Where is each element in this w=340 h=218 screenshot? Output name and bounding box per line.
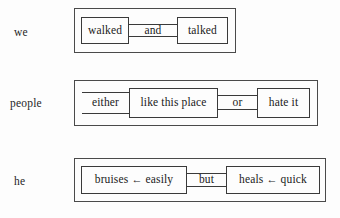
conjunct-head-heals: heals (239, 174, 263, 186)
coordination-diagram: we walked and talked people either like … (0, 0, 340, 218)
conjunct-talked: talked (177, 17, 228, 44)
left-arrow-icon: ← (128, 174, 145, 185)
connective-either: either (82, 92, 129, 114)
conjunct-modifier-quick: quick (281, 174, 307, 186)
subject-label-he: he (14, 175, 25, 187)
connective-but: but (187, 173, 226, 187)
subject-label-we: we (14, 26, 28, 38)
conjunct-walked: walked (81, 17, 129, 44)
conjunct-like-this-place: like this place (129, 88, 218, 118)
conjunct-heals-quick: heals←quick (226, 166, 320, 194)
conjunct-modifier-easily: easily (146, 174, 174, 186)
conjunct-head-bruises: bruises (95, 174, 129, 186)
conjunct-bruises-easily: bruises←easily (81, 166, 187, 194)
connective-and: and (129, 24, 177, 37)
left-arrow-icon: ← (263, 174, 280, 185)
connective-or: or (218, 95, 257, 110)
conjunct-hate-it: hate it (257, 88, 310, 118)
subject-label-people: people (10, 97, 42, 109)
